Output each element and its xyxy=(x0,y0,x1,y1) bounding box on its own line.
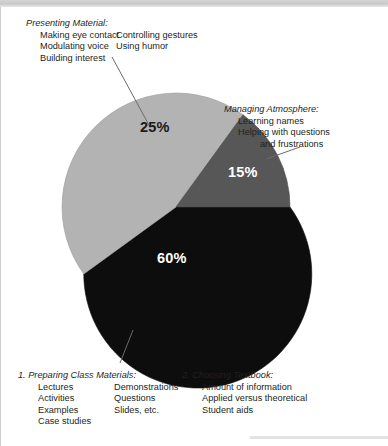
annotation-cell: Making eye contact xyxy=(40,30,116,42)
annotation-textbook-rows: Amount of information Applied versus the… xyxy=(182,382,307,417)
annotation-choosing-textbook: 2. Choosing Textbook: Amount of informat… xyxy=(182,370,307,416)
annotation-cell: Modulating voice xyxy=(40,41,116,53)
annotation-row: Modulating voice Using humor xyxy=(40,41,198,53)
pie-label-60-percent: 60% xyxy=(157,250,187,266)
annotation-cell: Case studies xyxy=(38,416,114,428)
annotation-line: and frustrations xyxy=(238,139,330,151)
annotation-cell: Slides, etc. xyxy=(114,405,159,417)
pie-label-25-percent: 25% xyxy=(140,119,170,135)
pie-label-15-percent: 15% xyxy=(228,164,258,180)
annotation-cell: Controlling gestures xyxy=(116,30,198,42)
annotation-managing-heading: Managing Atmosphere: xyxy=(224,104,330,116)
annotation-row: Case studies xyxy=(38,416,178,428)
annotation-preparing-rows: Lectures Demonstrations Activities Quest… xyxy=(18,382,178,428)
annotation-presenting-rows: Making eye contact Controlling gestures … xyxy=(26,30,198,65)
annotation-line: Learning names xyxy=(238,116,330,128)
annotation-cell: Examples xyxy=(38,405,114,417)
annotation-cell: Using humor xyxy=(116,41,168,53)
annotation-presenting-heading: Presenting Material: xyxy=(26,18,108,28)
annotation-cell: Activities xyxy=(38,393,114,405)
annotation-textbook-heading: 2. Choosing Textbook: xyxy=(182,370,273,380)
annotation-preparing-heading: 1. Preparing Class Materials: xyxy=(18,370,136,380)
annotation-preparing-class-materials: 1. Preparing Class Materials: Lectures D… xyxy=(18,370,178,428)
annotation-line: Student aids xyxy=(202,405,307,417)
annotation-presenting-material: Presenting Material: Making eye contact … xyxy=(26,18,198,64)
annotation-line: Applied versus theoretical xyxy=(202,393,307,405)
annotation-row: Lectures Demonstrations xyxy=(38,382,178,394)
annotation-cell: Lectures xyxy=(38,382,114,394)
annotation-managing-atmosphere: Managing Atmosphere: Learning names Help… xyxy=(224,104,330,150)
annotation-line: Helping with questions xyxy=(238,127,330,139)
annotation-line: Amount of information xyxy=(202,382,307,394)
annotation-cell: Questions xyxy=(114,393,155,405)
annotation-row: Building interest xyxy=(40,53,198,65)
pie-chart-figure: Presenting Material: Making eye contact … xyxy=(0,0,388,446)
annotation-managing-rows: Learning names Helping with questions an… xyxy=(224,116,330,151)
annotation-cell: Demonstrations xyxy=(114,382,178,394)
annotation-row: Activities Questions xyxy=(38,393,178,405)
annotation-cell: Building interest xyxy=(40,53,116,65)
annotation-row: Making eye contact Controlling gestures xyxy=(40,30,198,42)
annotation-row: Examples Slides, etc. xyxy=(38,405,178,417)
